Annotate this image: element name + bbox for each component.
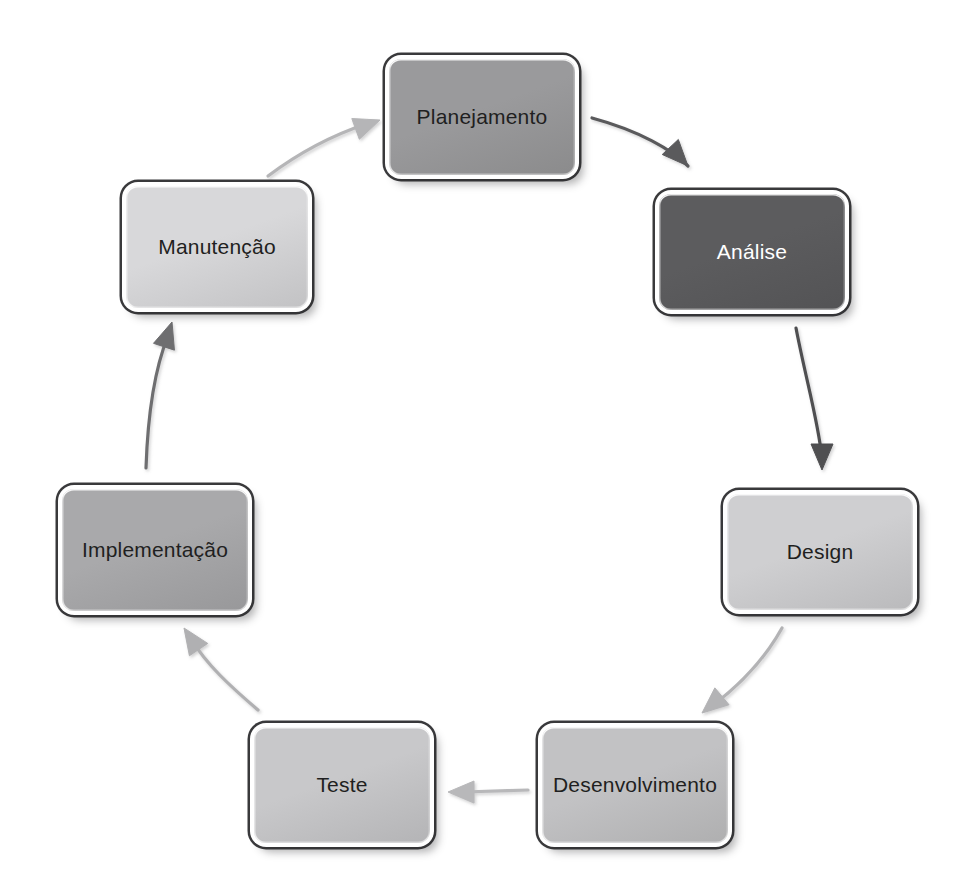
arrow-design-desenvolvimento (702, 628, 782, 713)
arrow-planejamento-analise-head (662, 139, 688, 166)
arrow-teste-implementacao (184, 628, 258, 710)
sdlc-cycle-diagram: PlanejamentoAnáliseDesignDesenvolvimento… (0, 0, 968, 890)
arrow-planejamento-analise (592, 118, 688, 166)
arrow-desenvolvimento-teste-line (464, 790, 528, 792)
node-teste[interactable]: Teste (250, 723, 434, 847)
node-label: Teste (308, 773, 375, 797)
arrow-planejamento-analise-line (592, 118, 688, 166)
node-design[interactable]: Design (723, 490, 917, 614)
node-implementacao[interactable]: Implementação (58, 485, 252, 615)
arrow-manutencao-planejamento (268, 119, 380, 176)
arrow-analise-design-line (796, 328, 822, 458)
node-label: Design (779, 540, 862, 564)
arrow-manutencao-planejamento-line (268, 124, 366, 176)
arrow-design-desenvolvimento-line (712, 628, 782, 706)
arrow-implementacao-manutencao-head (154, 322, 175, 350)
node-label: Análise (709, 240, 795, 264)
node-analise[interactable]: Análise (655, 190, 849, 314)
node-label: Planejamento (409, 105, 556, 129)
arrow-implementacao-manutencao (146, 322, 174, 468)
arrow-implementacao-manutencao-line (146, 336, 168, 468)
node-planejamento[interactable]: Planejamento (385, 55, 579, 179)
arrow-desenvolvimento-teste-head (448, 781, 474, 803)
arrow-desenvolvimento-teste (448, 781, 528, 803)
node-manutencao[interactable]: Manutenção (122, 182, 312, 312)
arrow-analise-design-head (811, 444, 833, 470)
node-desenvolvimento[interactable]: Desenvolvimento (538, 723, 732, 847)
node-label: Manutenção (150, 235, 284, 259)
node-label: Implementação (74, 538, 236, 562)
arrow-analise-design (796, 328, 833, 470)
arrow-manutencao-planejamento-head (352, 119, 380, 140)
arrow-teste-implementacao-head (184, 628, 208, 656)
node-label: Desenvolvimento (545, 773, 725, 797)
arrow-design-desenvolvimento-head (702, 688, 729, 713)
arrow-teste-implementacao-line (192, 640, 258, 710)
